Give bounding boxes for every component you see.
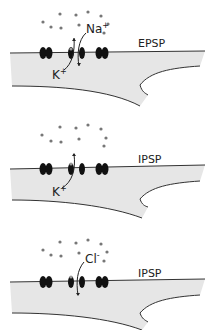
ipsp-cl-panel: Cl- IPSP <box>0 220 218 330</box>
epsp-panel: Na+ K+ EPSP <box>0 0 218 110</box>
cl-ion-label: Cl- <box>85 251 100 266</box>
postsynaptic-cell-body <box>10 279 205 330</box>
postsynaptic-cell-body <box>10 51 205 106</box>
epsp-diagram: Na+ K+ EPSP <box>0 0 218 110</box>
epsp-label: EPSP <box>138 37 166 50</box>
na-ion-label: Na+ <box>86 21 109 36</box>
ipsp-k-panel: K+ IPSP <box>0 110 218 220</box>
ipsp-label: IPSP <box>138 267 162 280</box>
ipsp-k-diagram: K+ IPSP <box>0 110 218 220</box>
ipsp-cl-diagram: Cl- IPSP <box>0 220 218 330</box>
ion-dots <box>40 123 107 147</box>
ipsp-label: IPSP <box>138 153 162 166</box>
